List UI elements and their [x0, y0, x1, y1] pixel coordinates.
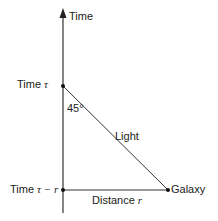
distance-symbol: r [138, 194, 142, 206]
axis-arrowhead-icon [60, 8, 67, 18]
time-tau-minus-r-text: Time [10, 183, 34, 195]
distance-label: Distance r [92, 195, 142, 206]
time-tau-label: Time τ [17, 79, 48, 90]
axis-label: Time [69, 11, 93, 22]
tau-point [61, 84, 65, 88]
angle-label: 45° [67, 103, 84, 114]
tau-minus-r-point [61, 188, 65, 192]
galaxy-point [166, 188, 170, 192]
tau-minus-r-symbol: τ − r [37, 183, 58, 195]
tau-symbol: τ [44, 78, 48, 90]
time-tau-text: Time [17, 78, 41, 90]
galaxy-label: Galaxy [171, 184, 205, 195]
distance-text: Distance [92, 194, 135, 206]
axis-label-text: Time [69, 10, 93, 22]
light-label: Light [115, 131, 139, 142]
time-tau-minus-r-label: Time τ − r [10, 184, 58, 195]
